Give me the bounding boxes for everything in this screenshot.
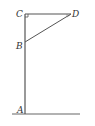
label-b: B bbox=[15, 41, 23, 51]
geometry-diagram: C D B A bbox=[0, 0, 95, 126]
label-a: A bbox=[16, 105, 24, 115]
label-d: D bbox=[71, 9, 79, 19]
segment-bd bbox=[25, 14, 71, 42]
label-c: C bbox=[16, 9, 23, 19]
